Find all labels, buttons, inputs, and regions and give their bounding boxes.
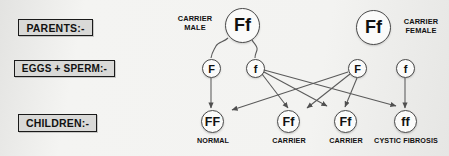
arrow-g2-c2 (262, 74, 288, 108)
child-3-phenotype: CARRIER (329, 136, 362, 145)
child-1-phenotype: NORMAL (197, 136, 229, 145)
stage-label-parents: PARENTS:- (18, 19, 93, 36)
child-node-3: Ff (334, 110, 357, 133)
parent-node-father: Ff (225, 8, 260, 43)
father-genotype: Ff (234, 15, 251, 36)
child-2-phenotype: CARRIER (272, 136, 305, 145)
child-node-2: Ff (277, 110, 300, 133)
child-1-genotype: FF (205, 115, 220, 129)
arrow-g2-c4 (264, 70, 396, 106)
father-caption: CARRIER MALE (171, 14, 219, 32)
child-4-phenotype: CYSTIC FIBROSIS (374, 136, 438, 145)
mother-genotype: Ff (365, 17, 382, 38)
child-node-1: FF (201, 110, 224, 133)
arrow-g3-c2 (307, 74, 350, 108)
gamete-1-allele: F (208, 63, 215, 75)
stage-label-children: CHILDREN:- (18, 114, 97, 132)
diagram-canvas: PARENTS:- EGGS + SPERM:- CHILDREN:- CARR… (0, 0, 449, 156)
parent-node-mother: Ff (356, 10, 391, 45)
child-3-genotype: Ff (340, 115, 352, 129)
gamete-node-4: f (396, 59, 415, 78)
fertilisation-arrows (211, 70, 405, 110)
child-2-genotype: Ff (283, 115, 295, 129)
gamete-node-3: F (348, 59, 367, 78)
gamete-2-allele: f (254, 63, 258, 75)
mother-caption: CARRIER FEMALE (396, 17, 446, 35)
arrow-g3-c1 (232, 72, 348, 110)
gamete-4-allele: f (404, 63, 408, 75)
stage-label-gametes: EGGS + SPERM:- (14, 60, 115, 77)
gamete-node-1: F (202, 59, 221, 78)
gamete-3-allele: F (354, 63, 361, 75)
gamete-node-2: f (246, 59, 265, 78)
child-4-genotype: ff (401, 115, 409, 129)
child-node-4: ff (394, 110, 417, 133)
